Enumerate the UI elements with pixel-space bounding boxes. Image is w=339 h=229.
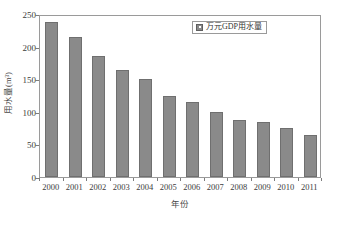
x-axis-tick-label: 2003	[113, 182, 130, 192]
legend-color-swatch-icon	[196, 24, 203, 31]
bar-slot	[228, 16, 252, 177]
x-axis-tick-mark	[298, 178, 299, 181]
x-axis-tick-mark	[180, 178, 181, 181]
bar-chart-figure: 用水量(m³) 050100150200250 万元GDP用水量 2000200…	[0, 0, 339, 229]
y-axis-tick-label: 150	[12, 75, 36, 85]
plot-area	[39, 15, 321, 178]
y-axis-tick-label: 0	[12, 173, 36, 183]
bar-slot	[275, 16, 299, 177]
y-axis-tick-label: 100	[12, 108, 36, 118]
bar-slot	[87, 16, 111, 177]
bar-slot	[205, 16, 229, 177]
x-axis-tick-label: 2009	[254, 182, 271, 192]
legend-entry-label: 万元GDP用水量	[206, 23, 262, 31]
x-axis-tick-mark	[157, 178, 158, 181]
x-axis-tick-label: 2000	[42, 182, 59, 192]
x-axis-tick-label: 2006	[183, 182, 200, 192]
bar-slot	[111, 16, 135, 177]
y-axis-tick-label: 250	[12, 10, 36, 20]
bar-slot	[64, 16, 88, 177]
bar	[304, 135, 317, 177]
bar	[186, 102, 199, 177]
bar	[280, 128, 293, 177]
bar	[92, 56, 105, 177]
bar-slot	[40, 16, 64, 177]
bar	[69, 37, 82, 177]
x-axis-tick-mark	[251, 178, 252, 181]
bar	[257, 122, 270, 177]
x-axis-tick-mark	[274, 178, 275, 181]
bar-slot	[252, 16, 276, 177]
y-axis-tick-label: 200	[12, 43, 36, 53]
bar	[163, 96, 176, 178]
x-axis-tick-mark	[133, 178, 134, 181]
chart-legend: 万元GDP用水量	[192, 21, 267, 34]
bar-slot	[181, 16, 205, 177]
x-axis-tick-label: 2008	[230, 182, 247, 192]
bar	[233, 120, 246, 177]
x-axis-tick-mark	[39, 178, 40, 181]
x-axis-title: 年份	[39, 197, 321, 209]
x-axis-tick-label: 2001	[66, 182, 83, 192]
bar	[139, 79, 152, 177]
x-axis-tick-mark	[321, 178, 322, 181]
x-axis-tick-label: 2005	[160, 182, 177, 192]
x-axis-tick-labels: 2000200120022003200420052006200720082009…	[39, 182, 321, 196]
x-axis-tick-mark	[86, 178, 87, 181]
bar	[45, 22, 58, 177]
bar-slot	[158, 16, 182, 177]
bars-container	[40, 16, 320, 177]
x-axis-tick-mark	[227, 178, 228, 181]
x-axis-tick-label: 2011	[301, 182, 318, 192]
x-axis-tick-label: 2002	[89, 182, 106, 192]
bar	[210, 112, 223, 177]
bar	[116, 70, 129, 177]
x-axis-tick-mark	[110, 178, 111, 181]
x-axis-tick-mark	[204, 178, 205, 181]
y-axis-tick-labels: 050100150200250	[12, 0, 36, 185]
x-axis-tick-label: 2007	[207, 182, 224, 192]
x-axis-tick-label: 2004	[136, 182, 153, 192]
bar-slot	[134, 16, 158, 177]
x-axis-tick-label: 2010	[277, 182, 294, 192]
y-axis-tick-label: 50	[12, 140, 36, 150]
bar-slot	[299, 16, 323, 177]
x-axis-tick-mark	[63, 178, 64, 181]
